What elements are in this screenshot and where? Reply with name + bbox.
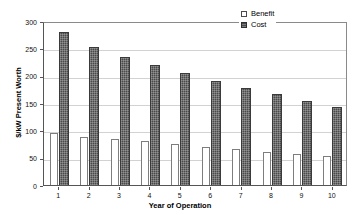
x-tick-mark: [119, 187, 120, 190]
bar-benefit-year-4: [141, 141, 149, 185]
legend-item-benefit: Benefit: [241, 10, 274, 18]
x-tick-label: 9: [291, 192, 311, 199]
x-tick-label: 2: [79, 192, 99, 199]
y-tick-label: 250: [25, 46, 37, 53]
x-axis: 12345678910: [43, 187, 347, 201]
bar-cost-year-5: [180, 73, 190, 185]
x-tick-label: 5: [170, 192, 190, 199]
bar-cost-year-1: [59, 32, 69, 185]
bar-benefit-year-7: [232, 149, 240, 185]
bar-cost-year-2: [89, 47, 99, 185]
bar-cost-year-4: [150, 65, 160, 185]
x-tick-mark: [271, 187, 272, 190]
y-tick-label: 100: [25, 128, 37, 135]
y-tick-label: 150: [25, 101, 37, 108]
y-axis: 050100150200250300: [0, 0, 43, 223]
x-tick-label: 6: [200, 192, 220, 199]
cost-swatch: [241, 22, 247, 28]
x-tick-mark: [210, 187, 211, 190]
x-tick-mark: [149, 187, 150, 190]
chart-legend: BenefitCost: [239, 9, 276, 30]
y-tick-label: 200: [25, 73, 37, 80]
bar-cost-year-8: [272, 94, 282, 185]
bar-cost-year-10: [332, 107, 342, 185]
legend-label: Benefit: [251, 10, 274, 18]
bar-chart: $/kW Present Worth 050100150200250300 12…: [0, 0, 360, 223]
bar-cost-year-7: [241, 88, 251, 185]
y-tick-label: 50: [29, 155, 37, 162]
bar-cost-year-6: [211, 81, 221, 185]
bar-benefit-year-6: [202, 147, 210, 185]
legend-item-cost: Cost: [241, 21, 274, 29]
bar-benefit-year-8: [263, 152, 271, 185]
bar-cost-year-9: [302, 101, 312, 185]
bar-cost-year-3: [120, 57, 130, 185]
y-tick-label: 0: [33, 183, 37, 190]
x-tick-label: 7: [231, 192, 251, 199]
x-tick-label: 1: [48, 192, 68, 199]
bar-benefit-year-3: [111, 139, 119, 185]
plot-area: [43, 22, 347, 186]
legend-label: Cost: [251, 21, 266, 29]
bar-benefit-year-9: [293, 154, 301, 185]
x-tick-label: 8: [261, 192, 281, 199]
x-tick-mark: [89, 187, 90, 190]
y-tick-label: 300: [25, 19, 37, 26]
benefit-swatch: [241, 11, 247, 17]
x-axis-title: Year of Operation: [0, 201, 360, 210]
x-tick-label: 4: [139, 192, 159, 199]
x-tick-label: 3: [109, 192, 129, 199]
bar-benefit-year-2: [80, 137, 88, 185]
x-tick-mark: [332, 187, 333, 190]
bar-benefit-year-5: [171, 144, 179, 185]
bar-benefit-year-1: [50, 133, 58, 185]
bar-benefit-year-10: [323, 156, 331, 185]
x-tick-label: 10: [322, 192, 342, 199]
x-tick-mark: [241, 187, 242, 190]
x-tick-mark: [301, 187, 302, 190]
x-tick-mark: [180, 187, 181, 190]
x-tick-mark: [58, 187, 59, 190]
